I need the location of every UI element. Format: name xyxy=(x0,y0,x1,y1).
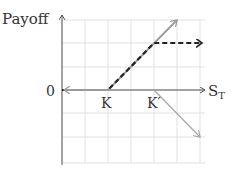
strike-label-k: K xyxy=(101,95,112,111)
grid-lines xyxy=(62,20,205,163)
origin-label: 0 xyxy=(46,83,55,99)
x-axis-label-subscript: T xyxy=(218,90,225,101)
x-axis-label-main: S xyxy=(208,82,218,100)
payoff-series xyxy=(62,20,202,137)
x-axis-label: ST xyxy=(208,82,225,101)
strike-label-k-prime: K′ xyxy=(147,95,161,111)
payoff-diagram: Payoff 0 K K′ ST xyxy=(0,0,231,174)
y-axis-title: Payoff xyxy=(2,10,50,28)
